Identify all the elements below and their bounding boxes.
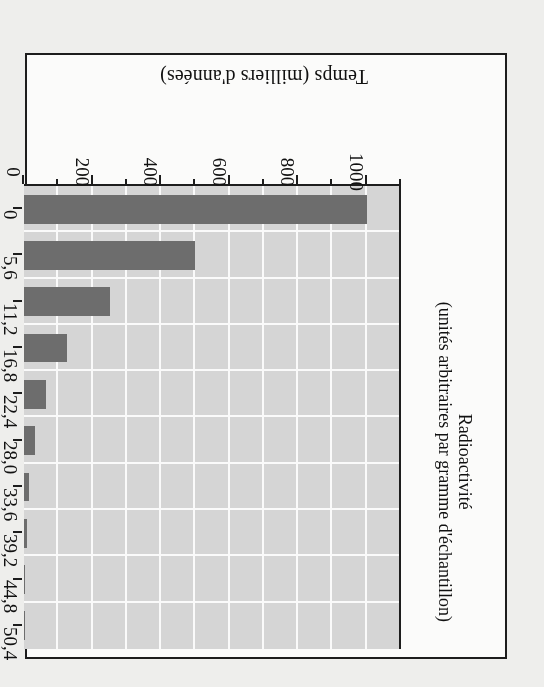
category-axis-label: 11,2: [0, 303, 21, 336]
x-axis-title: Temps (milliers d'années): [23, 65, 505, 88]
bar: [24, 334, 67, 363]
value-axis-label: 1000: [345, 153, 367, 191]
bar: [24, 473, 29, 502]
value-axis-label: 400: [139, 158, 161, 187]
scanned-page: 0200400600800100005,611,216,822,428,033,…: [0, 0, 544, 687]
category-axis-tick: [13, 624, 22, 626]
figure-frame: 0200400600800100005,611,216,822,428,033,…: [25, 53, 507, 659]
category-axis-tick: [13, 300, 22, 302]
category-axis-tick: [13, 207, 22, 209]
category-axis-label: 22,4: [0, 395, 21, 428]
category-axis-tick: [13, 531, 22, 533]
category-axis-tick: [13, 346, 22, 348]
bar: [24, 287, 110, 316]
bar: [24, 195, 367, 224]
value-axis-label: 800: [276, 158, 298, 187]
value-axis-tick-minor: [125, 179, 127, 184]
gridline-vertical: [365, 186, 367, 649]
category-axis-label: 5,6: [0, 256, 21, 280]
y-axis-title: Radioactivité (unités arbitraires par gr…: [435, 262, 475, 662]
bar: [24, 519, 27, 548]
value-axis-tick-minor: [330, 179, 332, 184]
gridline-horizontal: [24, 277, 401, 279]
value-axis-tick-minor: [262, 179, 264, 184]
category-axis-label: 28,0: [0, 441, 21, 474]
bar: [24, 380, 46, 409]
gridline-horizontal: [24, 554, 401, 556]
category-axis-tick: [13, 485, 22, 487]
bar: [24, 565, 25, 594]
y-axis-title-line1: Radioactivité: [455, 262, 475, 662]
bar: [24, 612, 25, 641]
y-axis-title-line2: (unités arbitraires par gramme d'échanti…: [435, 262, 455, 662]
gridline-horizontal: [24, 230, 401, 232]
value-axis-tick-minor: [399, 179, 401, 184]
value-axis-tick-minor: [56, 179, 58, 184]
gridline-horizontal: [24, 416, 401, 418]
plot-inner: [24, 186, 401, 649]
gridline-vertical: [330, 186, 332, 649]
category-axis-label: 44,8: [0, 580, 21, 613]
category-axis-label: 0: [0, 210, 21, 220]
value-axis-label: 600: [208, 158, 230, 187]
category-axis-label: 16,8: [0, 349, 21, 382]
gridline-horizontal: [24, 323, 401, 325]
gridline-vertical: [262, 186, 264, 649]
rotated-figure-container: 0200400600800100005,611,216,822,428,033,…: [25, 53, 507, 659]
bar: [24, 426, 35, 455]
gridline-vertical: [296, 186, 298, 649]
category-axis-label: 33,6: [0, 488, 21, 521]
gridline-horizontal: [24, 601, 401, 603]
gridline-horizontal: [24, 369, 401, 371]
value-axis-label: 200: [71, 158, 93, 187]
gridline-horizontal: [24, 508, 401, 510]
value-axis-tick-minor: [193, 179, 195, 184]
value-axis-label: 0: [2, 167, 24, 177]
category-axis-label: 39,2: [0, 534, 21, 567]
plot-area: [24, 186, 401, 649]
category-axis-label: 50,4: [0, 627, 21, 660]
gridline-vertical: [228, 186, 230, 649]
value-axis-line: [399, 186, 401, 649]
bar: [24, 241, 195, 270]
gridline-horizontal: [24, 462, 401, 464]
